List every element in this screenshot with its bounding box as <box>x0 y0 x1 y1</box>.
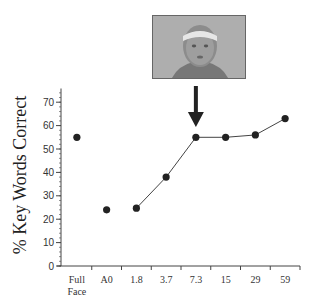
y-tick-label: 30 <box>43 190 55 201</box>
y-tick-label: 0 <box>48 261 54 272</box>
x-tick-label: Full <box>69 274 85 285</box>
y-tick-label: 10 <box>43 237 55 248</box>
y-tick-label: 20 <box>43 214 55 225</box>
data-series <box>73 115 288 213</box>
arrow-down-icon <box>188 86 204 127</box>
x-tick-label: 7.3 <box>190 274 203 285</box>
x-tick-label: Face <box>67 286 86 297</box>
x-tick-label: 29 <box>250 274 260 285</box>
x-tick-label: 59 <box>280 274 290 285</box>
x-tick-label: 3.7 <box>160 274 173 285</box>
x-tick-label: 1.8 <box>130 274 143 285</box>
y-tick-label: 40 <box>43 167 55 178</box>
data-point <box>73 134 80 141</box>
x-tick-label: 15 <box>221 274 231 285</box>
data-point <box>222 134 229 141</box>
data-point <box>282 115 289 122</box>
data-point <box>252 131 259 138</box>
data-point <box>163 173 170 180</box>
data-point <box>192 134 199 141</box>
arrow-head <box>188 112 204 127</box>
y-tick-label: 50 <box>43 144 55 155</box>
series-line <box>136 119 285 209</box>
y-tick-label: 60 <box>43 120 55 131</box>
data-point <box>103 206 110 213</box>
data-point <box>133 205 140 212</box>
x-tick-label: A0 <box>101 274 113 285</box>
chart-plot: 010203040506070 FullFaceA01.83.77.315295… <box>0 0 309 308</box>
y-tick-label: 70 <box>43 97 55 108</box>
arrow-shaft <box>194 86 198 112</box>
axes: 010203040506070 <box>43 89 300 272</box>
x-axis-tick-labels: FullFaceA01.83.77.3152959 <box>67 274 290 297</box>
